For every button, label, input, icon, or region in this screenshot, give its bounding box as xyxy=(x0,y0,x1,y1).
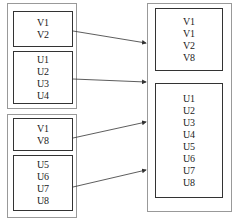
arrow-u-group2 xyxy=(73,170,146,187)
arrow-u-group1 xyxy=(73,79,146,82)
connector-arrows xyxy=(0,0,238,223)
arrow-v-group2 xyxy=(73,122,146,138)
arrow-v-group1 xyxy=(73,31,146,43)
